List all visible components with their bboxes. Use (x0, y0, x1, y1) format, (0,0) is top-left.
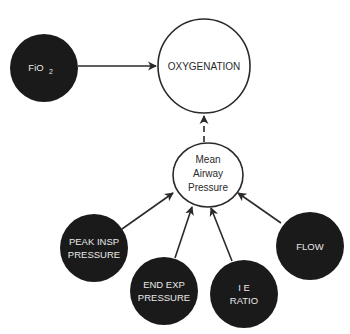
node-flow: FLOW (276, 212, 344, 280)
ie-ratio-label-line1: I E (238, 282, 250, 293)
edge-flow-to-map (238, 193, 281, 223)
edge-ie-ratio-to-map (211, 208, 232, 261)
oxygenation-label: OXYGENATION (168, 61, 241, 72)
peak-insp-label-line1: PEAK INSP (69, 236, 119, 247)
node-end-exp-pressure: END EXP PRESSURE (130, 257, 198, 325)
node-ie-ratio: I E RATIO (210, 260, 278, 328)
end-exp-label-line1: END EXP (143, 279, 185, 290)
edge-peak-insp-to-map (122, 193, 173, 229)
ie-ratio-label-line2: RATIO (230, 295, 258, 306)
node-fio2: FiO 2 (10, 34, 78, 102)
node-peak-insp-pressure: PEAK INSP PRESSURE (60, 214, 128, 282)
map-label-line2: Airway (193, 168, 223, 179)
map-label-line3: Pressure (188, 182, 228, 193)
fio2-label: FiO (28, 62, 43, 73)
node-oxygenation: OXYGENATION (158, 19, 250, 113)
node-mean-airway-pressure: Mean Airway Pressure (173, 143, 243, 207)
edge-end-exp-to-map (175, 207, 192, 258)
peak-insp-label-line2: PRESSURE (68, 249, 120, 260)
fio2-subscript: 2 (49, 68, 53, 75)
map-label-line1: Mean (195, 154, 220, 165)
flow-label: FLOW (296, 241, 323, 252)
end-exp-label-line2: PRESSURE (138, 292, 190, 303)
oxygenation-diagram: FiO 2 OXYGENATION Mean Airway Pressure P… (0, 0, 350, 334)
